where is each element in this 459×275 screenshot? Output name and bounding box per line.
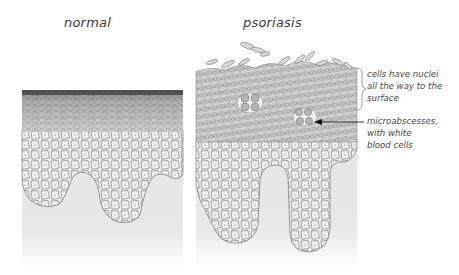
psoriasis-skin-panel <box>196 41 357 268</box>
annotation-microabscesses-line-2: with white <box>367 127 438 139</box>
annotation-nuclei-line-1: cells have nuclei <box>367 68 442 80</box>
annotation-nuclei-line-3: surface <box>367 92 442 104</box>
title-normal: normal <box>64 15 111 30</box>
normal-skin-panel <box>22 90 183 268</box>
annotation-microabscesses-line-1: microabscesses, <box>367 115 438 127</box>
annotation-nuclei-line-2: all the way to the <box>367 80 442 92</box>
annotation-microabscesses-line-3: blood cells <box>367 139 438 151</box>
title-psoriasis: psoriasis <box>243 15 302 30</box>
microabscess-2 <box>293 108 317 126</box>
annotation-microabscesses: microabscesses, with white blood cells <box>367 115 438 151</box>
brace-icon <box>357 68 366 110</box>
annotation-nuclei: cells have nuclei all the way to the sur… <box>367 68 442 104</box>
microabscess-1 <box>237 93 263 113</box>
